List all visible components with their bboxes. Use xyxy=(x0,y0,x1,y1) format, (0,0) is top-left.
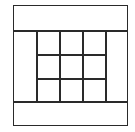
grid-row-divider-1 xyxy=(36,54,106,56)
right-column-divider xyxy=(105,30,107,102)
outer-frame xyxy=(13,5,128,126)
top-band-divider xyxy=(13,30,128,32)
grid-col-divider-2 xyxy=(82,30,84,102)
left-column-divider xyxy=(36,30,38,102)
bottom-band-divider xyxy=(13,101,128,103)
grid-col-divider-1 xyxy=(59,30,61,102)
grid-row-divider-2 xyxy=(36,78,106,80)
